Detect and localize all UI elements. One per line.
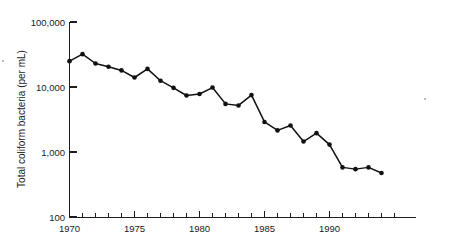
series-line-total-coliform [70, 54, 382, 173]
data-point [249, 93, 254, 98]
data-point [197, 92, 202, 97]
data-point [171, 86, 176, 91]
data-point [93, 61, 98, 66]
data-point [145, 67, 150, 72]
x-minor-ticks-group [83, 213, 395, 218]
x-tick-label-1980: 1980 [189, 223, 210, 234]
scan-speck [2, 60, 4, 62]
x-tick-label-1975: 1975 [124, 223, 145, 234]
data-point [210, 85, 215, 90]
y-axis-title: Total coliform bacteria (per mL) [16, 50, 27, 188]
data-point [184, 93, 189, 98]
chart-figure: 100,000 10,000 1,000 100 1970 1975 1980 … [0, 0, 449, 252]
axes-group [70, 22, 417, 218]
data-point [158, 78, 163, 83]
data-point [366, 165, 371, 170]
data-point [353, 167, 358, 172]
data-point [301, 139, 306, 144]
y-ticks-group [70, 22, 77, 217]
x-tick-label-1985: 1985 [254, 223, 275, 234]
x-tick-label-1990: 1990 [319, 223, 340, 234]
data-point [275, 128, 280, 133]
line-chart: 100,000 10,000 1,000 100 1970 1975 1980 … [0, 0, 449, 252]
y-tick-label-100000: 100,000 [31, 17, 65, 28]
data-point [223, 102, 228, 107]
y-tick-label-100: 100 [49, 212, 65, 223]
scan-speck [424, 98, 426, 100]
y-tick-label-10000: 10,000 [36, 82, 65, 93]
data-point [288, 123, 293, 128]
data-point [80, 52, 85, 57]
data-point [327, 142, 332, 147]
data-point [340, 165, 345, 170]
data-point [262, 120, 267, 125]
y-tick-label-1000: 1,000 [41, 147, 65, 158]
data-point [119, 68, 124, 73]
data-point [132, 75, 137, 80]
data-point [314, 131, 319, 136]
data-point [67, 59, 72, 64]
data-point [236, 103, 241, 108]
data-point [106, 64, 111, 69]
data-point [379, 171, 384, 176]
x-tick-label-1970: 1970 [59, 223, 80, 234]
